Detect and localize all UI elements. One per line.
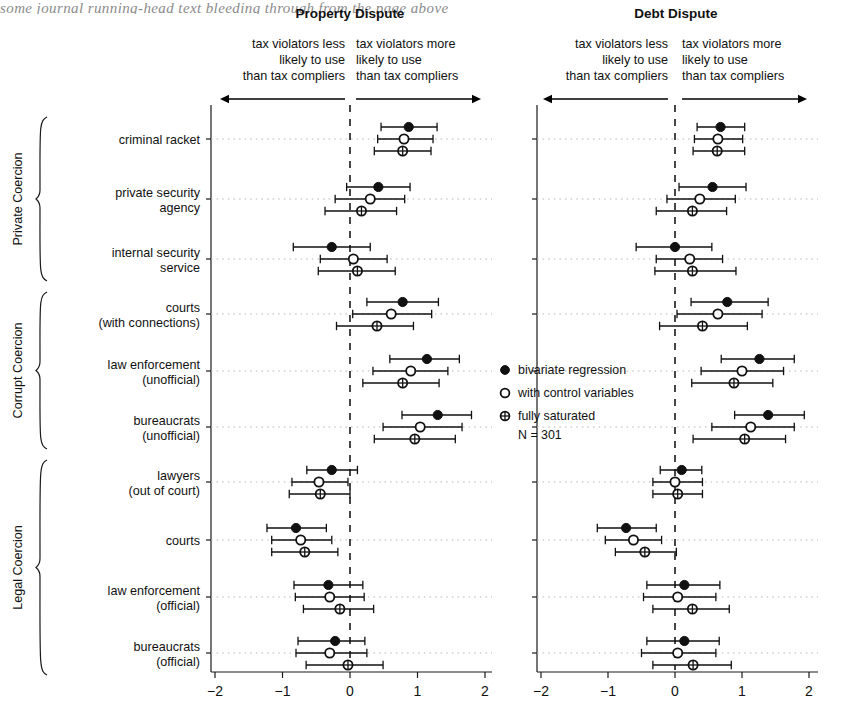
left-direction-label: tax violators lesslikely to usethan tax …: [243, 37, 345, 83]
marker-crossed-circle: [740, 434, 749, 443]
xtick-label: 0: [346, 683, 354, 699]
estimate-point: [647, 580, 720, 589]
marker-filled-circle: [404, 122, 413, 131]
estimate-point: [636, 242, 712, 251]
estimate-point: [660, 465, 702, 474]
marker-crossed-circle: [316, 489, 325, 498]
figure-canvas: some journal running-head text bleeding …: [0, 0, 841, 717]
marker-open-circle: [685, 254, 694, 263]
legend: bivariate regressionwith control variabl…: [501, 363, 634, 442]
marker-crossed-circle: [501, 412, 510, 421]
svg-text:internal security: internal security: [112, 246, 201, 260]
estimate-point: [653, 489, 703, 498]
marker-filled-circle: [755, 354, 764, 363]
estimate-point: [294, 580, 363, 589]
group-label-1: Corrupt Coercion: [11, 323, 25, 419]
marker-open-circle: [325, 648, 334, 657]
legend-label-0: bivariate regression: [518, 363, 626, 377]
left-arrow-head: [220, 95, 229, 103]
row-label-9: bureaucrats(official): [133, 640, 200, 670]
left-direction-label: tax violators lesslikely to usethan tax …: [566, 37, 668, 83]
marker-filled-circle: [670, 242, 679, 251]
estimate-point: [325, 206, 397, 215]
estimate-point: [701, 366, 783, 375]
group-brace: [36, 292, 47, 449]
estimate-point: [289, 489, 350, 498]
marker-filled-circle: [716, 122, 725, 131]
xtick-label: 0: [671, 683, 679, 699]
marker-open-circle: [399, 134, 408, 143]
svg-text:(unofficial): (unofficial): [142, 429, 200, 443]
estimate-point: [656, 254, 722, 263]
svg-text:than tax compliers: than tax compliers: [243, 69, 345, 83]
group-brace: [36, 117, 47, 281]
left-arrow-head: [543, 95, 552, 103]
marker-filled-circle: [331, 636, 340, 645]
marker-crossed-circle: [698, 321, 707, 330]
row-label-0: criminal racket: [119, 133, 201, 147]
marker-crossed-circle: [688, 206, 697, 215]
panel-property: −2−1012: [206, 105, 492, 699]
svg-text:tax violators less: tax violators less: [252, 37, 345, 51]
svg-text:(with connections): (with connections): [99, 316, 201, 330]
estimate-point: [697, 122, 745, 131]
group-label-0: Private Coercion: [11, 152, 25, 245]
estimate-point: [381, 122, 437, 131]
svg-text:law enforcement: law enforcement: [108, 358, 201, 372]
estimate-point: [605, 535, 661, 544]
marker-open-circle: [387, 309, 396, 318]
marker-crossed-circle: [357, 206, 366, 215]
marker-open-circle: [673, 648, 682, 657]
svg-text:than tax compliers: than tax compliers: [566, 69, 668, 83]
marker-open-circle: [737, 366, 746, 375]
group-1: Corrupt Coercion: [11, 292, 47, 449]
legend-label-1: with control variables: [517, 386, 634, 400]
estimate-point: [647, 636, 719, 645]
estimate-point: [320, 254, 387, 263]
estimate-point: [679, 182, 746, 191]
group-2: Legal Coercion: [11, 460, 47, 675]
estimate-point: [353, 309, 432, 318]
right-arrow-head: [798, 95, 807, 103]
right-direction-label: tax violators morelikely to usethan tax …: [682, 37, 784, 83]
panel-title: Property Dispute: [296, 6, 405, 21]
estimate-point: [693, 434, 785, 443]
estimate-point: [374, 146, 431, 155]
group-label-2: Legal Coercion: [11, 525, 25, 610]
marker-filled-circle: [680, 580, 689, 589]
estimate-point: [272, 547, 338, 556]
svg-text:service: service: [160, 261, 200, 275]
estimate-point: [306, 660, 383, 669]
marker-open-circle: [713, 134, 722, 143]
estimate-point: [692, 378, 773, 387]
marker-filled-circle: [422, 354, 431, 363]
marker-crossed-circle: [372, 321, 381, 330]
marker-crossed-circle: [713, 146, 722, 155]
svg-text:tax violators more: tax violators more: [356, 37, 455, 51]
marker-filled-circle: [501, 366, 510, 375]
row-label-1: private securityagency: [115, 186, 200, 216]
estimate-point: [318, 266, 395, 275]
estimate-point: [272, 535, 332, 544]
marker-open-circle: [416, 422, 425, 431]
svg-text:(out of court): (out of court): [129, 484, 200, 498]
estimate-point: [298, 636, 365, 645]
marker-open-circle: [406, 366, 415, 375]
svg-text:likely to use: likely to use: [279, 53, 345, 67]
marker-filled-circle: [680, 636, 689, 645]
svg-text:tax violators less: tax violators less: [575, 37, 668, 51]
marker-open-circle: [695, 194, 704, 203]
estimate-point: [694, 134, 742, 143]
estimate-point: [378, 134, 433, 143]
estimate-point: [677, 309, 762, 318]
row-label-7: courts: [166, 534, 200, 548]
svg-text:courts: courts: [166, 534, 200, 548]
marker-open-circle: [629, 535, 638, 544]
svg-text:private security: private security: [115, 186, 200, 200]
marker-filled-circle: [374, 182, 383, 191]
estimate-point: [653, 660, 731, 669]
svg-text:likely to use: likely to use: [682, 53, 748, 67]
svg-text:agency: agency: [159, 201, 200, 215]
row-label-3: courts(with connections): [99, 301, 201, 331]
estimate-point: [383, 422, 462, 431]
